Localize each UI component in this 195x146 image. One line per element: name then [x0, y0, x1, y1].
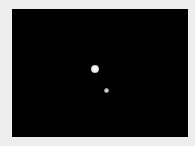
primary-celestial-body	[91, 65, 99, 73]
night-sky-photo	[12, 9, 188, 137]
photo-frame	[0, 0, 195, 146]
companion-celestial-body	[104, 88, 109, 93]
